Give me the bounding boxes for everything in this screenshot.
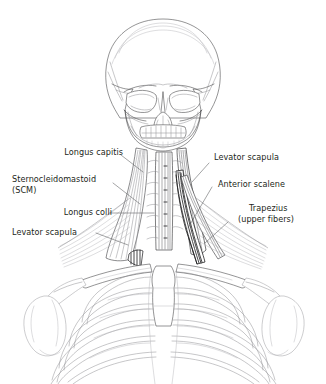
- anatomy-illustration: .ln { fill:none; stroke:#3c3c3f; stroke-…: [0, 0, 326, 384]
- label-levator-scapula-right: Levator scapula: [214, 152, 279, 162]
- label-longus-capitis: Longus capitis: [64, 147, 123, 157]
- label-sternocleidomastoid: Sternocleidomastoid: [12, 174, 96, 184]
- cranium: [106, 19, 221, 118]
- maxilla: [140, 125, 186, 138]
- label-anterior-scalene: Anterior scalene: [218, 179, 285, 189]
- label-levator-scapula-left: Levator scapula: [12, 227, 77, 237]
- label-scm-abbreviation: (SCM): [12, 185, 36, 195]
- label-trapezius-detail: (upper fibers): [238, 214, 294, 224]
- sternum: [152, 266, 175, 326]
- label-longus-colli: Longus colli: [64, 207, 112, 217]
- label-trapezius: Trapezius: [249, 203, 287, 213]
